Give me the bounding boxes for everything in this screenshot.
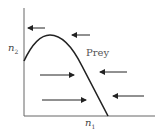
prey-curve-label: Prey [86,47,109,58]
y-axis-label-sub: 2 [14,48,18,55]
y-axis-label: n2 [8,42,18,55]
x-axis-label-sub: 1 [91,123,95,130]
x-axis-label: n1 [85,117,95,130]
direction-arrows [28,28,144,100]
phase-plane-diagram [0,0,163,133]
